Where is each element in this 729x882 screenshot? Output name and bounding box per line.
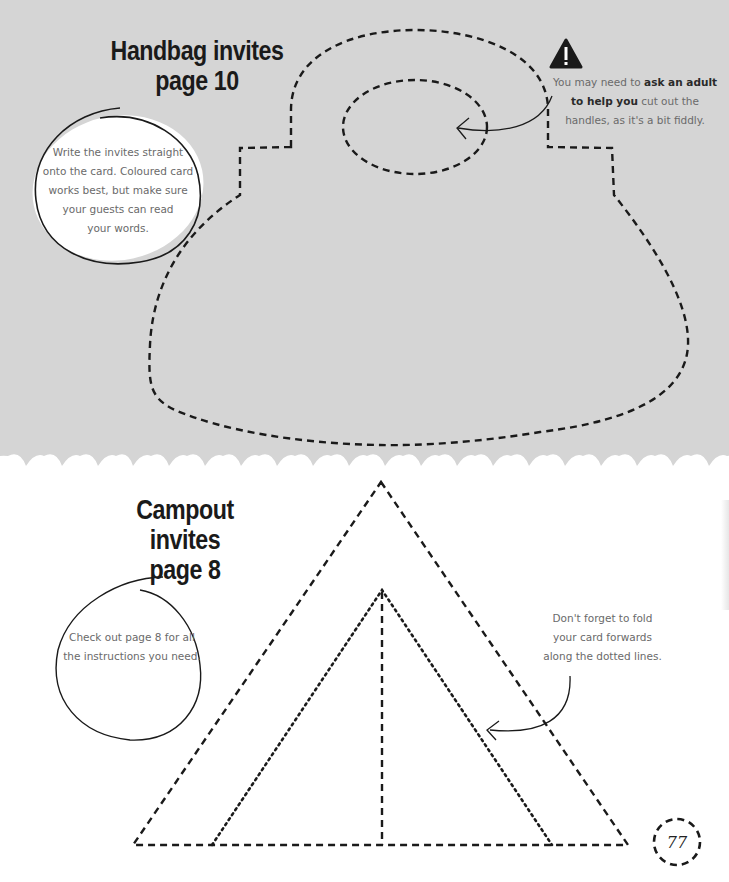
page-number: 77 <box>651 816 703 868</box>
warning-emphasis: to help you <box>571 95 638 107</box>
campout-title-line1: Campout invites <box>99 495 271 555</box>
warning-note: You may need to ask an adult to help you… <box>545 73 725 130</box>
campout-tip-text: Check out page 8 for all the instruction… <box>62 628 202 666</box>
handbag-title: Handbag invites page 10 <box>107 36 288 96</box>
warning-text: cut out the <box>638 95 699 107</box>
handbag-tip-line: your words. <box>38 219 198 238</box>
fold-note: Don't forget to fold your card forwards … <box>525 609 680 666</box>
warning-arrow <box>458 96 552 130</box>
campout-tip-line: the instructions you need. <box>62 647 202 666</box>
warning-text: You may need to <box>553 76 644 88</box>
handbag-tip-line: your guests can read <box>38 200 198 219</box>
warning-text: handles, as it's a bit fiddly. <box>545 111 725 130</box>
campout-title: Campout invites page 8 <box>99 495 271 585</box>
handbag-tip-line: onto the card. Coloured card <box>38 162 198 181</box>
fold-note-line: along the dotted lines. <box>525 647 680 666</box>
handbag-tip-line: works best, but make sure <box>38 181 198 200</box>
handle-hole-cut-line <box>343 80 487 174</box>
fold-arrow <box>490 676 570 731</box>
warning-triangle-icon <box>551 40 581 67</box>
fold-note-line: your card forwards <box>525 628 680 647</box>
campout-tip-line: Check out page 8 for all <box>62 628 202 647</box>
handbag-tip-text: Write the invites straight onto the card… <box>38 143 198 238</box>
cutout-templates <box>0 0 729 882</box>
campout-title-line2: page 8 <box>99 555 271 585</box>
warning-emphasis: ask an adult <box>644 76 717 88</box>
fold-note-line: Don't forget to fold <box>525 609 680 628</box>
handbag-tip-line: Write the invites straight <box>38 143 198 162</box>
handbag-title-line1: Handbag invites <box>107 36 288 66</box>
handbag-title-line2: page 10 <box>107 66 288 96</box>
